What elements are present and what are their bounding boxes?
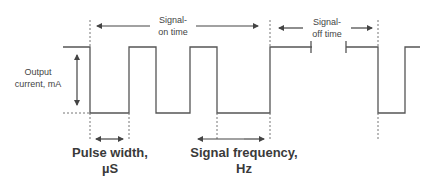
waveform [63, 41, 420, 113]
signal-frequency-label-1: Signal frequency, [190, 145, 297, 160]
pulse-width-label-2: µS [102, 161, 118, 176]
signal-on-time-label-1: Signal- [159, 15, 187, 25]
output-current-label-1: Output [24, 67, 52, 77]
output-current-label-2: current, mA [15, 79, 62, 89]
signal-frequency-label-2: Hz [236, 161, 252, 176]
signal-off-time-label-2: off time [312, 29, 341, 39]
pulse-waveform-diagram: Signal- on time Signal- off time Output … [0, 0, 431, 182]
signal-off-time-label-1: Signal- [313, 17, 341, 27]
pulse-width-label-1: Pulse width, [72, 145, 148, 160]
signal-on-time-label-2: on time [158, 27, 188, 37]
